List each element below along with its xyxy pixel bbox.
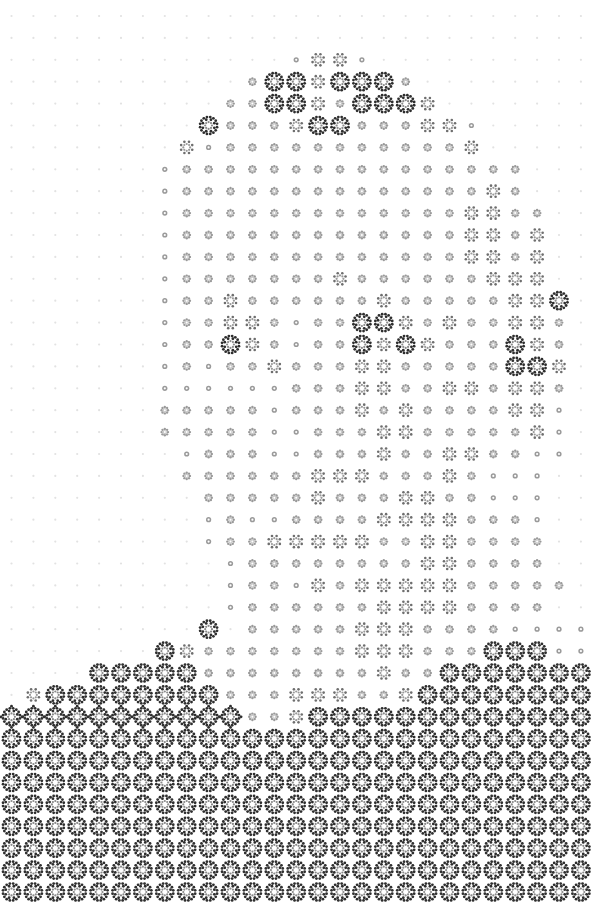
rosette-cell	[286, 860, 306, 880]
rosette-cell	[155, 663, 175, 683]
rosette-cell	[21, 705, 45, 729]
rosette-cell	[89, 751, 109, 771]
rosette-cell	[289, 688, 303, 702]
rosette-cell	[2, 751, 22, 771]
rosette-cell	[486, 228, 500, 242]
rosette-cell	[54, 497, 56, 499]
rosette-cell	[505, 816, 525, 836]
rosette-cell	[467, 472, 476, 481]
rosette-cell	[292, 406, 301, 415]
rosette-cell	[558, 37, 560, 39]
rosette-cell	[505, 663, 525, 683]
rosette-cell	[272, 517, 277, 522]
rosette-cell	[314, 274, 323, 283]
rosette-cell	[448, 81, 450, 83]
rosette-cell	[352, 707, 372, 727]
rosette-cell	[111, 838, 131, 858]
rosette-cell	[445, 143, 454, 152]
rosette-cell	[89, 795, 109, 815]
rosette-cell	[421, 600, 435, 614]
rosette-cell	[177, 663, 197, 683]
rosette-cell	[111, 663, 131, 683]
rosette-cell	[314, 209, 323, 218]
rosette-cell	[120, 212, 122, 214]
rosette-cell	[336, 362, 345, 371]
rosette-cell	[445, 296, 454, 305]
rosette-cell	[399, 622, 413, 636]
rosette-cell	[54, 475, 56, 477]
rosette-cell	[514, 15, 516, 17]
rosette-cell	[467, 625, 476, 634]
rosette-cell	[571, 838, 591, 858]
rosette-cell	[142, 475, 144, 477]
rosette-cell	[571, 663, 591, 683]
rosette-cell	[32, 650, 34, 652]
rosette-cell	[24, 860, 44, 880]
rosette-cell	[270, 165, 279, 174]
rosette-cell	[580, 431, 582, 433]
rosette-cell	[248, 77, 257, 86]
rosette-cell	[580, 234, 582, 236]
rosette-cell	[505, 751, 525, 771]
rosette-cell	[292, 274, 301, 283]
rosette-cell	[462, 663, 482, 683]
rosette-cell	[2, 882, 22, 902]
rosette-cell	[221, 729, 241, 749]
rosette-cell	[361, 37, 363, 39]
rosette-cell	[142, 37, 144, 39]
rosette-cell	[505, 729, 525, 749]
rosette-cell	[555, 384, 564, 393]
rosette-cell	[423, 187, 432, 196]
rosette-cell	[421, 579, 435, 593]
rosette-cell	[418, 707, 438, 727]
rosette-cell	[427, 81, 429, 83]
rosette-cell	[98, 234, 100, 236]
rosette-cell	[272, 430, 277, 435]
rosette-cell	[558, 103, 560, 105]
rosette-cell	[182, 253, 191, 262]
rosette-cell	[111, 816, 131, 836]
rosette-cell	[467, 318, 476, 327]
rosette-cell	[45, 685, 65, 705]
rosette-cell	[186, 606, 188, 608]
rosette-cell	[358, 253, 367, 262]
rosette-cell	[339, 37, 341, 39]
rosette-cell	[164, 81, 166, 83]
rosette-cell	[120, 103, 122, 105]
rosette-cell	[536, 146, 538, 148]
rosette-cell	[76, 81, 78, 83]
rosette-cell	[396, 335, 416, 355]
rosette-cell	[76, 37, 78, 39]
rosette-cell	[155, 816, 175, 836]
rosette-cell	[292, 493, 301, 502]
rosette-cell	[483, 663, 503, 683]
rosette-cell	[514, 81, 516, 83]
rosette-cell	[24, 751, 44, 771]
rosette-cell	[314, 603, 323, 612]
rosette-cell	[377, 600, 391, 614]
rosette-cell	[162, 364, 167, 369]
rosette-cell	[120, 146, 122, 148]
rosette-cell	[120, 628, 122, 630]
rosette-cell	[32, 37, 34, 39]
rosette-cell	[470, 37, 472, 39]
rosette-cell	[445, 209, 454, 218]
rosette-cell	[229, 37, 231, 39]
rosette-cell	[76, 212, 78, 214]
rosette-cell	[54, 650, 56, 652]
rosette-cell	[226, 450, 235, 459]
rosette-cell	[10, 103, 12, 105]
rosette-cell	[32, 212, 34, 214]
rosette-cell	[489, 559, 498, 568]
rosette-cell	[76, 519, 78, 521]
rosette-cell	[76, 409, 78, 411]
rosette-cell	[248, 625, 257, 634]
rosette-cell	[379, 121, 388, 130]
rosette-cell	[533, 559, 542, 568]
rosette-cell	[89, 773, 109, 793]
rosette-cell	[270, 296, 279, 305]
rosette-cell	[142, 541, 144, 543]
rosette-cell	[186, 519, 188, 521]
rosette-cell	[445, 428, 454, 437]
rosette-cell	[399, 316, 413, 330]
